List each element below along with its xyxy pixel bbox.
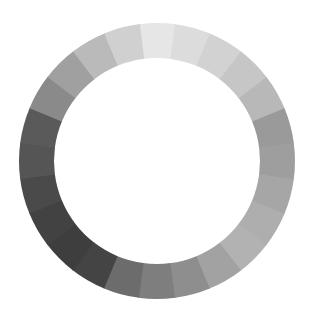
ring-segment-0	[139, 23, 176, 59]
color-wheel-canvas	[0, 0, 310, 316]
grayscale-ring	[0, 0, 310, 316]
ring-segment-18	[19, 142, 55, 179]
ring-segment-6	[259, 143, 295, 180]
ring-segment-12	[138, 263, 175, 299]
